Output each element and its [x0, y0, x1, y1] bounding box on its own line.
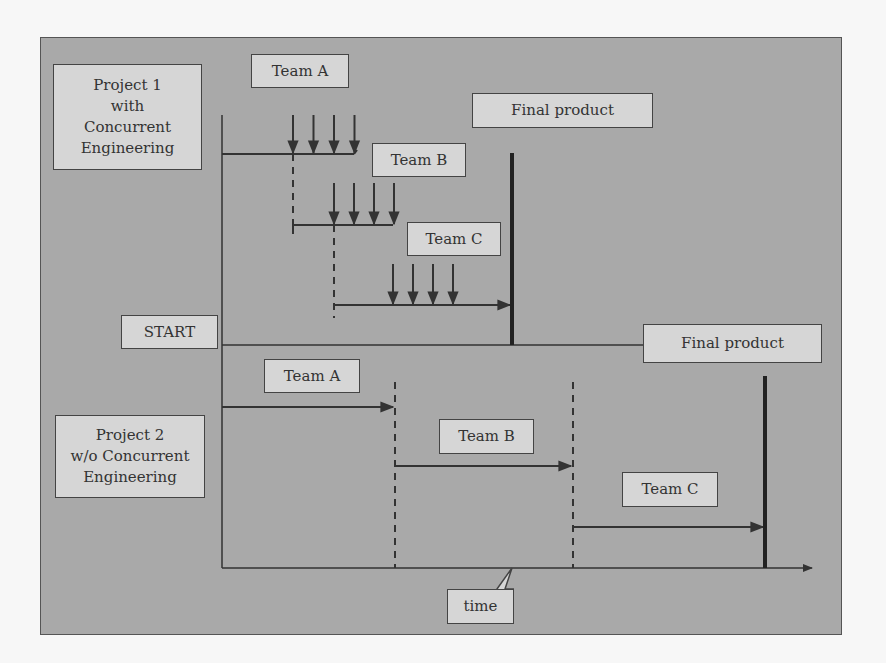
project2-title: Project 2 w/o Concurrent Engineering [55, 415, 205, 498]
start-label: START [121, 315, 218, 349]
p1-team-a-label: Team A [251, 54, 349, 88]
p2-team-a-label: Team A [264, 359, 360, 393]
project1-title-line: Concurrent [84, 117, 171, 138]
project1-title-line: with [111, 96, 144, 117]
p1-team-b-input-arrows [334, 183, 394, 224]
p2-team-b-label: Team B [439, 419, 534, 454]
project2-title-line: Engineering [83, 467, 177, 488]
project1-title: Project 1 with Concurrent Engineering [53, 64, 202, 170]
p1-team-c-input-arrows [393, 264, 453, 304]
p1-team-a-input-arrows [293, 115, 355, 153]
p1-final-product-label: Final product [472, 93, 653, 128]
p1-team-b-label: Team B [372, 143, 466, 177]
p2-final-product-label: Final product [643, 324, 822, 363]
p1-team-b-timeline [293, 225, 393, 233]
p2-team-c-label: Team C [622, 472, 718, 507]
p1-team-c-label: Team C [407, 222, 501, 256]
p1-team-a-timeline [222, 150, 357, 154]
time-label: time [447, 589, 514, 624]
project2-title-line: w/o Concurrent [71, 446, 190, 467]
project1-title-line: Project 1 [93, 75, 162, 96]
project1-title-line: Engineering [81, 138, 175, 159]
project2-title-line: Project 2 [96, 425, 165, 446]
